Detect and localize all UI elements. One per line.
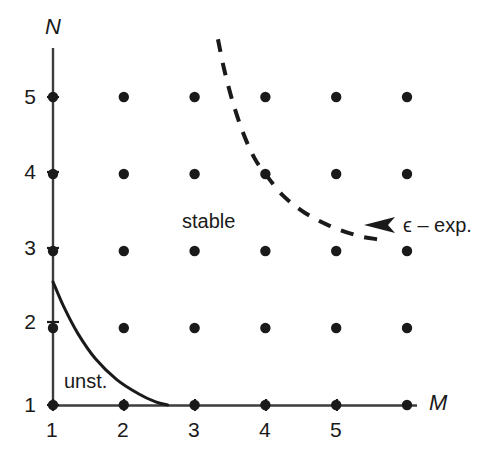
lattice-point: [331, 323, 341, 333]
lattice-point: [189, 169, 199, 179]
y-tick-label-3: 3: [10, 237, 36, 258]
lattice-point: [189, 246, 199, 256]
lattice-point: [331, 400, 341, 410]
lattice-point: [119, 323, 129, 333]
y-tick-label-1: 1: [10, 394, 36, 415]
lattice-point: [260, 246, 270, 256]
lattice-point: [189, 323, 199, 333]
lattice-point: [260, 400, 270, 410]
unstable-region-label: unst.: [64, 371, 107, 391]
lattice-point: [119, 169, 129, 179]
y-tick-label-4: 4: [10, 161, 36, 182]
stable-region-label: stable: [182, 211, 235, 231]
lattice-point: [402, 169, 412, 179]
lattice-point: [189, 400, 199, 410]
phase-diagram-figure: N M 5 4 3 2 1 1 2 3 4 5 stable unst. ϵ –…: [0, 0, 499, 454]
x-tick-label-1: 1: [46, 419, 58, 440]
lattice-point: [119, 246, 129, 256]
lattice-point: [331, 169, 341, 179]
y-tick-label-5: 5: [10, 86, 36, 107]
x-tick-label-2: 2: [117, 419, 129, 440]
y-tick-label-2: 2: [10, 311, 36, 332]
epsilon-expansion-arrow-icon: [364, 217, 395, 233]
lattice-point: [48, 246, 58, 256]
epsilon-expansion-label: ϵ – exp.: [403, 215, 472, 235]
lattice-point: [260, 323, 270, 333]
lattice-point: [48, 92, 58, 102]
lattice-point-group: [48, 92, 412, 410]
lattice-point: [119, 400, 129, 410]
lattice-point: [402, 92, 412, 102]
x-tick-label-4: 4: [259, 419, 271, 440]
lattice-point: [402, 400, 412, 410]
y-axis-name: N: [45, 16, 61, 38]
lattice-point: [48, 400, 58, 410]
lattice-point: [189, 92, 199, 102]
epsilon-expansion-curve: [218, 39, 379, 239]
lattice-point: [402, 246, 412, 256]
lattice-point: [119, 92, 129, 102]
lattice-point: [402, 323, 412, 333]
lattice-point: [48, 169, 58, 179]
x-tick-label-3: 3: [188, 419, 200, 440]
lattice-point: [331, 246, 341, 256]
lattice-point: [48, 323, 58, 333]
x-axis-name: M: [429, 392, 447, 414]
lattice-point: [331, 92, 341, 102]
x-tick-label-5: 5: [330, 419, 342, 440]
lattice-point: [260, 92, 270, 102]
